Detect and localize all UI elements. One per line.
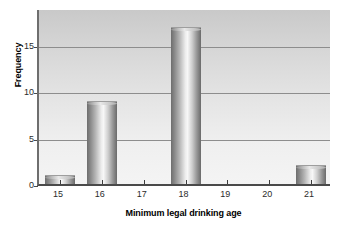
x-tick-label-17: 17 bbox=[137, 190, 147, 199]
y-axis-tick-labels: 051015 bbox=[10, 0, 34, 226]
x-tick-label-20: 20 bbox=[262, 190, 272, 199]
x-tickmark-20 bbox=[269, 180, 270, 185]
histogram-figure: Frequency 051015 15161718192021 Minimum … bbox=[0, 0, 342, 226]
y-tickmark-0 bbox=[34, 186, 38, 187]
x-tick-label-16: 16 bbox=[95, 190, 105, 199]
y-tick-label-15: 15 bbox=[14, 42, 34, 51]
x-tick-label-19: 19 bbox=[220, 190, 230, 199]
bar-16 bbox=[87, 101, 117, 184]
x-tick-label-18: 18 bbox=[178, 190, 188, 199]
x-axis-title: Minimum legal drinking age bbox=[37, 208, 330, 218]
x-tickmark-18 bbox=[186, 180, 187, 185]
plot-area bbox=[37, 10, 330, 186]
x-tick-label-15: 15 bbox=[53, 190, 63, 199]
x-tick-label-21: 21 bbox=[304, 190, 314, 199]
x-tickmark-21 bbox=[311, 180, 312, 185]
y-tick-label-0: 0 bbox=[14, 181, 34, 190]
y-tick-label-5: 5 bbox=[14, 135, 34, 144]
y-tick-label-10: 10 bbox=[14, 88, 34, 97]
bar-18 bbox=[171, 27, 201, 184]
x-tickmark-19 bbox=[227, 180, 228, 185]
x-tickmark-16 bbox=[102, 180, 103, 185]
x-axis-tick-labels: 15161718192021 bbox=[37, 190, 330, 204]
x-tickmark-15 bbox=[60, 180, 61, 185]
x-tickmark-17 bbox=[144, 180, 145, 185]
